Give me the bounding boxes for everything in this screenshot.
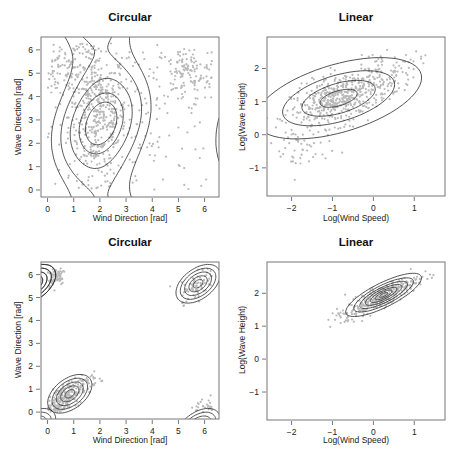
panel-top-right-linear: Linear Log(Wind Speed) Log(Wave Height) … — [237, 11, 445, 223]
x-axis-label: Log(Wind Speed) — [323, 213, 389, 223]
y-axis-ticks: 0123456 — [28, 45, 40, 195]
x-tick-label: 2 — [98, 204, 103, 214]
y-axis-label: Wave Direction [rad] — [13, 302, 23, 379]
x-tick-label: 6 — [202, 426, 207, 436]
scatter-points — [47, 268, 213, 414]
x-tick-label: 5 — [176, 204, 181, 214]
panel-bottom-left-circular: Circular Wind Direction [rad] Wave Direc… — [12, 236, 221, 447]
x-tick-label: 3 — [124, 204, 129, 214]
x-tick-label: 0 — [371, 203, 376, 213]
scatter-points — [247, 49, 426, 181]
x-axis-ticks: 0123456 — [45, 198, 207, 214]
x-tick-label: 0 — [371, 427, 376, 437]
panel-bottom-right-linear: Linear Log(Wind Speed) Log(Wave Height) … — [237, 236, 445, 445]
y-tick-label: 0 — [254, 130, 259, 140]
y-tick-label: 4 — [28, 315, 33, 325]
panel-title: Linear — [339, 11, 374, 23]
x-tick-label: 4 — [150, 204, 155, 214]
y-tick-label: 5 — [28, 68, 33, 78]
y-tick-label: 0 — [254, 354, 259, 364]
y-tick-label: 3 — [28, 338, 33, 348]
plot-area — [12, 264, 221, 447]
y-tick-label: 1 — [254, 97, 259, 107]
x-axis-label: Wind Direction [rad] — [93, 435, 168, 445]
y-tick-label: 1 — [254, 321, 259, 331]
y-tick-label: 6 — [28, 270, 33, 280]
x-axis-ticks: 0123456 — [45, 420, 207, 436]
plot-area — [47, 37, 219, 197]
x-tick-label: 4 — [150, 426, 155, 436]
scatter-points — [47, 42, 213, 190]
y-tick-label: 2 — [254, 288, 259, 298]
y-tick-label: 0 — [28, 185, 33, 195]
y-axis-ticks: 0123456 — [28, 270, 40, 418]
scatter-points — [327, 268, 434, 328]
y-tick-label: 2 — [28, 361, 33, 371]
x-tick-label: 1 — [71, 426, 76, 436]
y-axis-label: Log(Wave Height) — [237, 83, 247, 151]
panel-title: Circular — [108, 236, 152, 248]
x-tick-label: 5 — [176, 426, 181, 436]
x-tick-label: 2 — [98, 426, 103, 436]
x-axis-label: Wind Direction [rad] — [93, 213, 168, 223]
x-tick-label: 1 — [412, 427, 417, 437]
x-axis-ticks: −2−101 — [287, 197, 417, 213]
x-tick-label: −1 — [328, 203, 338, 213]
contour-lines — [256, 58, 422, 139]
y-tick-label: 2 — [28, 138, 33, 148]
x-tick-label: −2 — [287, 427, 297, 437]
x-tick-label: 1 — [71, 204, 76, 214]
panel-title: Linear — [339, 236, 374, 248]
y-tick-label: 1 — [28, 384, 33, 394]
y-tick-label: −1 — [249, 163, 259, 173]
y-tick-label: −1 — [249, 387, 259, 397]
x-tick-label: 0 — [45, 426, 50, 436]
x-tick-label: 1 — [412, 203, 417, 213]
y-axis-ticks: −1012 — [249, 288, 266, 397]
y-tick-label: 0 — [28, 407, 33, 417]
plot-frame — [267, 262, 445, 420]
y-tick-label: 3 — [28, 115, 33, 125]
figure-canvas: Circular Wind Direction [rad] Wave Direc… — [0, 0, 457, 462]
figure-2x2-density-plots: Circular Wind Direction [rad] Wave Direc… — [0, 0, 457, 462]
plot-area — [247, 49, 426, 181]
plot-area — [327, 268, 434, 328]
y-tick-label: 5 — [28, 293, 33, 303]
y-axis-ticks: −1012 — [249, 63, 266, 172]
x-tick-label: −2 — [287, 203, 297, 213]
y-tick-label: 2 — [254, 63, 259, 73]
x-tick-label: 0 — [45, 204, 50, 214]
x-tick-label: 6 — [202, 204, 207, 214]
y-tick-label: 6 — [28, 45, 33, 55]
y-axis-label: Wave Direction [rad] — [13, 79, 23, 156]
x-tick-label: −1 — [328, 427, 338, 437]
panel-top-left-circular: Circular Wind Direction [rad] Wave Direc… — [13, 11, 219, 223]
x-tick-label: 3 — [124, 426, 129, 436]
y-tick-label: 4 — [28, 92, 33, 102]
y-tick-label: 1 — [28, 162, 33, 172]
y-axis-label: Log(Wave Height) — [237, 306, 247, 374]
panel-title: Circular — [108, 11, 152, 23]
contour-lines — [51, 37, 219, 197]
